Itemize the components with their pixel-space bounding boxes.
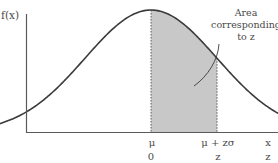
x-label-mean-plus-z-sigma: μ + zσ xyxy=(201,137,235,148)
shaded-area xyxy=(151,10,217,133)
z-label-variable: z xyxy=(265,151,270,162)
annotation-line-2: corresponding xyxy=(211,19,278,30)
annotation-line-3: to z xyxy=(237,31,255,42)
z-label-zero: 0 xyxy=(148,151,154,162)
y-axis-label: f(x) xyxy=(1,9,19,21)
annotation-line-1: Area xyxy=(234,7,258,18)
x-label-variable: x xyxy=(265,137,271,148)
x-label-mean: μ xyxy=(149,137,156,148)
z-label-z: z xyxy=(215,151,220,162)
normal-distribution-diagram: f(x) Area corresponding to z μ μ + zσ x … xyxy=(0,0,278,163)
